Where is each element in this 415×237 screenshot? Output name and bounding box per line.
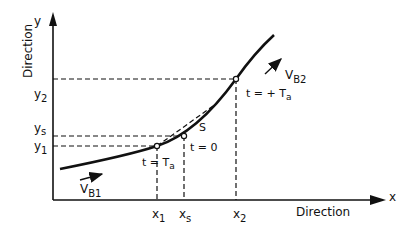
y-axis-label: y — [34, 14, 41, 28]
y-axis-arrow-icon — [49, 12, 57, 26]
point-t-plus — [233, 76, 238, 81]
x-axis-arrow-icon — [370, 195, 386, 205]
vb1-arrow-icon — [80, 174, 102, 180]
tick-xs: xs — [179, 207, 191, 224]
tick-ys: ys — [34, 121, 46, 137]
label-t-plus-ta: t = + Ta — [246, 87, 291, 102]
label-vb2: VB2 — [285, 68, 306, 85]
point-s — [181, 133, 186, 138]
vb2-arrow-icon — [265, 59, 281, 74]
x-axis-title: Direction — [296, 205, 350, 219]
tick-x1: x1 — [152, 207, 165, 224]
label-t-minus-ta: t = Ta — [142, 156, 175, 171]
label-s: S — [199, 121, 206, 134]
trajectory-curve — [60, 35, 274, 169]
label-t-zero: t = 0 — [190, 141, 218, 154]
tick-x2: x2 — [233, 207, 246, 224]
tick-y1: y1 — [34, 139, 47, 156]
y-axis-title: Direction — [21, 24, 35, 78]
point-t-minus — [154, 143, 159, 148]
trajectory-diagram: y Direction y2 ys y1 x1 xs x2 x Directio… — [0, 0, 415, 237]
x-axis-label: x — [389, 190, 396, 204]
label-vb1: VB1 — [80, 182, 101, 199]
tick-y2: y2 — [34, 87, 47, 104]
